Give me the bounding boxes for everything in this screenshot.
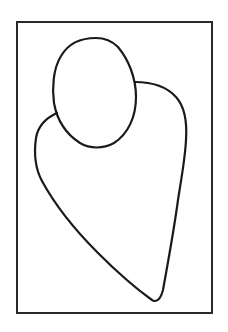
line-drawing [0, 0, 228, 332]
body-right-contour [135, 82, 186, 301]
body-left-contour [35, 113, 155, 301]
drawing-canvas [0, 0, 228, 332]
head-outline [53, 38, 136, 148]
